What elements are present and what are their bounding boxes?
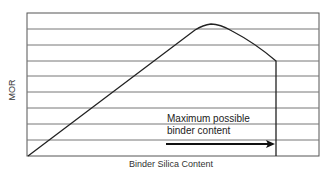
x-axis-label: Binder Silica Content <box>100 158 242 170</box>
annotation-line-1: Maximum possible <box>167 113 250 125</box>
annotation-line-2: binder content <box>167 125 250 137</box>
chart-svg <box>0 0 332 174</box>
y-axis-label: MOR <box>6 78 18 102</box>
annotation: Maximum possible binder content <box>167 113 250 137</box>
